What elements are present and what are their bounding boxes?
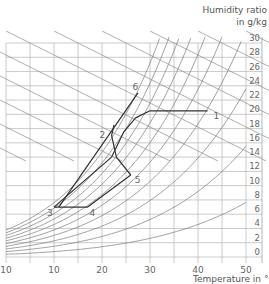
svg-text:10: 10 (48, 265, 60, 275)
svg-text:0: 0 (255, 247, 260, 257)
x-axis-title: Temperature in °C (193, 274, 269, 284)
svg-text:30: 30 (144, 265, 156, 275)
svg-text:10: 10 (249, 176, 260, 186)
svg-text:20: 20 (249, 104, 260, 114)
enthalpy-lines (0, 31, 269, 161)
svg-text:24: 24 (249, 76, 260, 86)
svg-text:5: 5 (135, 175, 141, 185)
svg-text:18: 18 (249, 119, 260, 129)
svg-text:1: 1 (214, 111, 220, 121)
svg-text:8: 8 (255, 190, 260, 200)
svg-text:20: 20 (96, 265, 108, 275)
svg-text:3: 3 (47, 208, 53, 218)
svg-text:2: 2 (255, 233, 260, 243)
svg-text:26: 26 (249, 62, 260, 72)
svg-text:22: 22 (249, 90, 260, 100)
svg-text:30: 30 (249, 33, 260, 43)
svg-text:10: 10 (0, 265, 12, 275)
svg-text:4: 4 (255, 218, 260, 228)
svg-text:2: 2 (100, 130, 106, 140)
svg-text:12: 12 (249, 161, 260, 171)
svg-text:16: 16 (249, 133, 260, 143)
svg-text:14: 14 (249, 147, 260, 157)
svg-text:6: 6 (133, 82, 139, 92)
process-point-labels: 123456 (47, 82, 219, 218)
svg-text:4: 4 (90, 208, 96, 218)
psychrometric-chart: 024681012141618202224262830101020304050 … (0, 0, 269, 284)
svg-text:6: 6 (255, 204, 260, 214)
svg-text:28: 28 (249, 47, 260, 57)
